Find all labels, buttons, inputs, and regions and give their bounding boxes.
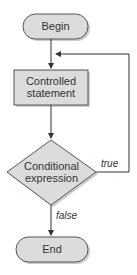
statement-label-line2: statement [14,87,88,99]
begin-label: Begin [23,20,88,32]
statement-label: Controlled statement [14,75,88,99]
condition-label-line1: Conditional [7,160,96,172]
true-label: true [101,158,118,169]
condition-label-line2: expression [7,172,96,184]
end-label: End [16,243,88,255]
flowchart-canvas [0,0,137,275]
condition-label: Conditional expression [7,160,96,184]
false-label: false [56,210,77,221]
statement-label-line1: Controlled [14,75,88,87]
